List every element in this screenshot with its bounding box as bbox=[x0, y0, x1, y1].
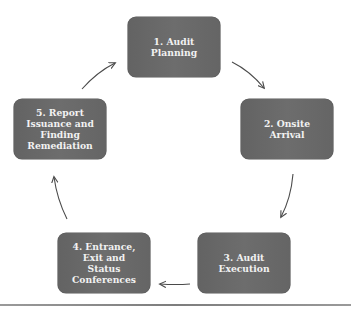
bottom-divider bbox=[0, 304, 351, 306]
step-2-label: 2. Onsite Arrival bbox=[245, 118, 329, 140]
step-3-audit-execution: 3. Audit Execution bbox=[198, 233, 290, 293]
step-4-conferences: 4. Entrance, Exit and Status Conferences bbox=[58, 233, 150, 293]
step-5-label: 5. Report Issuance and Finding Remediati… bbox=[24, 107, 96, 151]
arrow-3-to-4 bbox=[160, 284, 190, 285]
step-3-label: 3. Audit Execution bbox=[202, 252, 286, 274]
step-5-report-remediation: 5. Report Issuance and Finding Remediati… bbox=[14, 99, 106, 159]
step-2-onsite-arrival: 2. Onsite Arrival bbox=[241, 99, 333, 159]
step-4-label: 4. Entrance, Exit and Status Conferences bbox=[66, 241, 142, 285]
arrow-5-to-1 bbox=[82, 63, 115, 89]
arrow-4-to-5 bbox=[54, 177, 67, 219]
arrow-1-to-2 bbox=[232, 62, 264, 88]
audit-cycle-diagram: 1. Audit Planning 2. Onsite Arrival 3. A… bbox=[0, 0, 351, 312]
arrow-2-to-3 bbox=[281, 174, 293, 217]
step-1-label: 1. Audit Planning bbox=[132, 36, 216, 58]
step-1-audit-planning: 1. Audit Planning bbox=[128, 17, 220, 77]
